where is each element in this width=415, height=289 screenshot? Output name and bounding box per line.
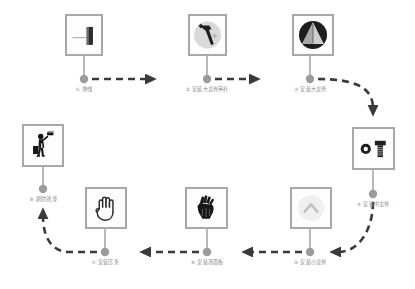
chalk-line-marker-icon bbox=[67, 16, 101, 54]
flowchart-canvas: ① 弹线 ② 安装大龙骨吊杆 ③ 安装大龙骨 bbox=[0, 0, 415, 289]
node-dot-step6 bbox=[203, 248, 211, 256]
painter-roller-icon bbox=[24, 126, 62, 165]
icon-box-step6[interactable] bbox=[185, 187, 228, 229]
connector-step4-step5 bbox=[338, 202, 373, 252]
node-dot-step2 bbox=[203, 75, 211, 83]
bolt-and-nut-icon bbox=[354, 129, 393, 168]
connector-step3-step4 bbox=[318, 79, 373, 108]
node-label-step1: ① 弹线 bbox=[75, 87, 92, 92]
node-dot-step5 bbox=[306, 248, 314, 256]
icon-box-step8[interactable] bbox=[22, 124, 64, 167]
icon-box-step1[interactable] bbox=[65, 14, 103, 56]
hammer-icon bbox=[190, 16, 225, 54]
node-dot-step3 bbox=[306, 75, 314, 83]
node-dot-step8 bbox=[39, 185, 47, 193]
node-label-step8: ⑧ 刷防锈漆 bbox=[29, 197, 57, 202]
node-label-step4: ④ 安装中龙骨 bbox=[357, 202, 390, 207]
work-glove-icon bbox=[187, 189, 226, 227]
node-dot-step1 bbox=[80, 75, 88, 83]
node-dot-step7 bbox=[101, 248, 109, 256]
icon-box-step7[interactable] bbox=[85, 187, 127, 229]
node-label-step5: ⑤ 安装小龙骨 bbox=[294, 260, 327, 265]
icon-box-step2[interactable] bbox=[188, 14, 227, 56]
node-label-step6: ⑥ 安装罩面板 bbox=[191, 260, 224, 265]
open-hand-icon bbox=[87, 189, 125, 227]
icon-box-step4[interactable] bbox=[352, 127, 395, 170]
icon-box-step3[interactable] bbox=[292, 14, 334, 56]
icon-box-step5[interactable] bbox=[290, 187, 332, 229]
node-label-step7: ⑦ 安装压条 bbox=[91, 260, 119, 265]
node-label-step2: ② 安装大龙骨吊杆 bbox=[185, 87, 228, 92]
node-label-step3: ③ 安装大龙骨 bbox=[294, 87, 327, 92]
angle-bracket-circle-icon bbox=[292, 189, 330, 227]
node-dot-step4 bbox=[369, 190, 377, 198]
trowel-circle-icon bbox=[294, 16, 332, 54]
